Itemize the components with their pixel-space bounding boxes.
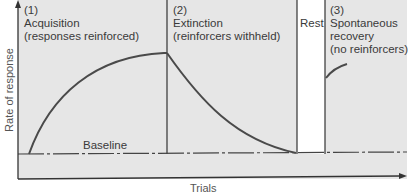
x-axis-label: Trials xyxy=(190,182,216,194)
y-axis-label: Rate of response xyxy=(3,45,15,135)
phase2-label: (2) Extinction (reinforcers withheld) xyxy=(173,4,280,43)
phase2-name: Extinction xyxy=(173,17,280,30)
phase3-number: (3) xyxy=(330,4,408,17)
phase1-name: Acquisition xyxy=(24,17,139,30)
phase3-name: Spontaneous xyxy=(330,17,408,30)
phase3-note: (no reinforcers) xyxy=(330,43,408,56)
phase2-note: (reinforcers withheld) xyxy=(173,30,280,43)
rest-label: Rest xyxy=(300,17,324,30)
phase3-label: (3) Spontaneous recovery (no reinforcers… xyxy=(330,4,408,56)
phase3-name2: recovery xyxy=(330,30,408,43)
phase1-number: (1) xyxy=(24,4,139,17)
phase1-label: (1) Acquisition (responses reinforced) xyxy=(24,4,139,43)
baseline-label: Baseline xyxy=(83,139,127,152)
phase2-number: (2) xyxy=(173,4,280,17)
phase1-note: (responses reinforced) xyxy=(24,30,139,43)
